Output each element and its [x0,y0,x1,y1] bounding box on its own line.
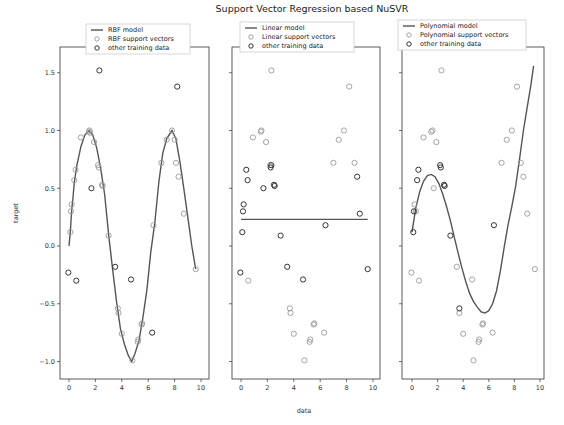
subplot-rbf: 0246810−1.0−0.50.00.51.01.5RBF modelRBF … [39,24,209,392]
support-vector-marker [263,139,268,144]
legend-label: RBF model [108,26,143,34]
y-tick-label: −1.0 [39,358,55,366]
legend-label: Linear support vectors [262,33,336,41]
support-vector-marker [504,137,509,142]
legend-linear: Linear modelLinear support vectorsother … [240,22,354,52]
legend-label: Linear model [262,24,305,32]
training-data-marker [66,270,71,275]
training-data-marker [448,233,453,238]
training-data-marker [300,277,305,282]
training-data-marker [238,270,243,275]
support-vector-marker [416,278,421,283]
support-vector-marker [514,84,519,89]
y-tick-label: −0.5 [39,300,55,308]
x-tick-label: 2 [265,384,269,392]
legend-label: Polynomial model [420,22,478,30]
x-tick-label: 2 [93,384,97,392]
training-data-marker [175,84,180,89]
support-vector-marker [490,330,495,335]
support-vector-marker [430,128,435,133]
support-vector-marker [461,331,466,336]
subplot-linear: 0246810Linear modelLinear support vector… [229,22,380,392]
y-tick-label: 0.5 [45,185,55,193]
subplot-polynomial: 0246810Polynomial modelPolynomial suppor… [398,20,544,392]
axes-frame [402,47,544,379]
legend-label: other training data [108,44,169,52]
support-vector-marker [322,330,327,335]
support-vector-marker [521,174,526,179]
support-vector-marker [302,358,307,363]
training-data-marker [278,233,283,238]
training-data-marker [150,330,155,335]
support-vector-marker [176,174,181,179]
y-axis-label: target [12,203,20,223]
support-vector-marker [509,128,514,133]
support-vector-marker [471,358,476,363]
training-data-marker [323,223,328,228]
support-vector-marker [352,160,357,165]
plot-area [238,68,371,363]
subplots: 0246810−1.0−0.50.00.51.01.5RBF modelRBF … [39,20,544,392]
support-vector-marker [173,160,178,165]
legend-label: Polynomial support vectors [420,31,509,39]
support-vector-marker [431,186,436,191]
figure: Support Vector Regression based NuSVR 02… [0,0,564,425]
y-tick-label: 0.0 [45,242,55,250]
support-vector-marker [439,68,444,73]
support-vector-marker [532,267,537,272]
x-tick-label: 10 [369,384,377,392]
support-vector-marker [454,264,459,269]
support-vector-marker [246,278,251,283]
x-tick-label: 4 [461,384,465,392]
training-data-marker [355,174,360,179]
support-vector-marker [331,160,336,165]
training-data-marker [285,264,290,269]
x-tick-label: 0 [410,384,414,392]
training-data-marker [113,264,118,269]
model-line [412,66,534,313]
training-data-marker [240,230,245,235]
training-data-marker [97,68,102,73]
support-vector-marker [78,135,83,140]
x-tick-label: 8 [173,384,177,392]
support-vector-marker [421,135,426,140]
plot-area [66,68,199,363]
chart-title: Support Vector Regression based NuSVR [216,3,409,14]
training-data-marker [241,202,246,207]
training-data-marker [365,267,370,272]
legend-polynomial: Polynomial modelPolynomial support vecto… [398,20,526,50]
x-tick-label: 8 [512,384,516,392]
x-tick-label: 10 [197,384,205,392]
training-data-marker [491,223,496,228]
support-vector-marker [291,331,296,336]
support-vector-marker [336,137,341,142]
legend-label: other training data [262,42,323,50]
support-vector-marker [151,223,156,228]
training-data-marker [89,186,94,191]
x-tick-label: 0 [67,384,71,392]
x-tick-label: 2 [436,384,440,392]
support-vector-marker [409,270,414,275]
x-tick-label: 0 [239,384,243,392]
x-tick-label: 8 [345,384,349,392]
x-tick-label: 10 [536,384,544,392]
plot-area [409,66,538,363]
legend-label: other training data [420,40,481,48]
x-tick-label: 4 [120,384,124,392]
training-data-marker [261,186,266,191]
support-vector-marker [434,139,439,144]
x-tick-label: 6 [318,384,322,392]
support-vector-marker [499,160,504,165]
training-data-marker [244,167,249,172]
x-tick-label: 6 [487,384,491,392]
training-data-marker [357,211,362,216]
training-data-marker [128,277,133,282]
support-vector-marker [341,128,346,133]
support-vector-marker [250,135,255,140]
x-tick-label: 4 [292,384,296,392]
support-vector-marker [525,211,530,216]
y-tick-label: 1.0 [45,127,55,135]
legend-rbf: RBF modelRBF support vectorsother traini… [86,24,190,54]
legend-label: RBF support vectors [108,35,174,43]
training-data-marker [411,230,416,235]
